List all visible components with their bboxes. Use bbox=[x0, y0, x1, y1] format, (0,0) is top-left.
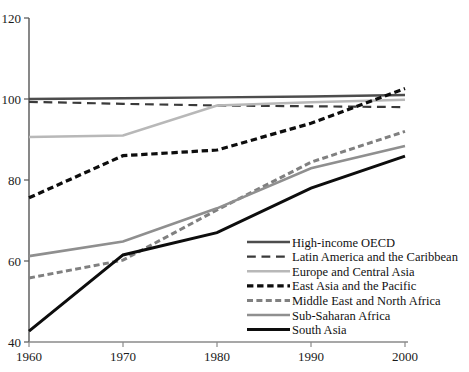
x-tick-label: 1970 bbox=[110, 349, 136, 364]
x-tick-label: 1980 bbox=[204, 349, 230, 364]
legend-label-0: High-income OECD bbox=[292, 236, 395, 250]
chart-legend: High-income OECDLatin America and the Ca… bbox=[247, 236, 459, 338]
y-tick-label: 80 bbox=[8, 173, 21, 188]
legend-label-3: East Asia and the Pacific bbox=[292, 279, 417, 293]
chart-canvas: 120100806040 19601970198019902000 High-i… bbox=[0, 0, 469, 372]
y-axis-ticks: 120100806040 bbox=[2, 11, 30, 350]
legend-label-1: Latin America and the Caribbean bbox=[292, 250, 459, 264]
legend-label-6: South Asia bbox=[292, 323, 347, 337]
x-tick-label: 1990 bbox=[298, 349, 324, 364]
x-tick-label: 2000 bbox=[392, 349, 418, 364]
y-tick-label: 40 bbox=[8, 335, 21, 350]
x-axis-ticks: 19601970198019902000 bbox=[16, 342, 418, 364]
y-tick-label: 60 bbox=[8, 254, 21, 269]
series-line-0 bbox=[29, 95, 405, 99]
legend-label-5: Sub-Saharan Africa bbox=[292, 309, 391, 323]
legend-label-2: Europe and Central Asia bbox=[292, 265, 415, 279]
line-chart: 120100806040 19601970198019902000 High-i… bbox=[0, 0, 469, 372]
legend-label-4: Middle East and North Africa bbox=[292, 294, 441, 308]
series-line-2 bbox=[29, 100, 405, 137]
y-tick-label: 120 bbox=[2, 11, 22, 26]
x-tick-label: 1960 bbox=[16, 349, 42, 364]
y-tick-label: 100 bbox=[2, 92, 22, 107]
